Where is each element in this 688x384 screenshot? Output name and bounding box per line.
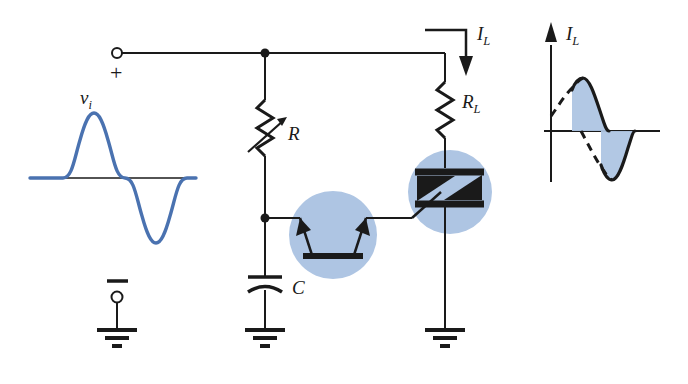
input-waveform-label: vi [80,87,92,112]
positive-terminal [112,48,122,58]
load-resistor-label: RL [461,91,481,116]
load-current-label: IL [476,23,490,48]
ground-rc [245,330,285,346]
variable-resistor-R [257,100,273,156]
variable-resistor-arrow-shaft [248,120,284,152]
load-resistor-RL [437,82,453,138]
load-chart-label: IL [565,23,579,48]
capacitor-label: C [292,277,305,298]
load-current-chart: IL [544,22,660,182]
ground-triac [425,330,465,346]
input-waveform-chart: vi [30,87,196,243]
negative-terminal [112,292,123,303]
ground-source [97,330,137,346]
plus-terminal-label: + [110,60,122,85]
variable-resistor-label: R [287,123,300,144]
circuit-diagram: + R C RL [0,0,688,384]
figure-canvas: + R C RL [0,0,688,384]
load-chart-y-axis-arrow [545,22,557,42]
diac-highlight-circle [289,191,377,279]
